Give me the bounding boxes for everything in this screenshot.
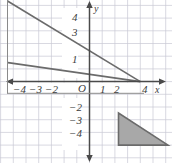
shaded-triangle bbox=[119, 113, 169, 145]
y-tick-label-4: 4 bbox=[72, 12, 78, 23]
x-tick-label-neg4: −4 bbox=[13, 84, 26, 95]
x-tick-label-neg2: −2 bbox=[45, 84, 58, 95]
y-tick-label-neg3: −3 bbox=[69, 115, 82, 126]
x-axis-label: x bbox=[155, 85, 159, 95]
x-tick-label-4: 4 bbox=[142, 84, 148, 95]
x-tick-label-1: 1 bbox=[100, 84, 106, 95]
y-tick-label-3: 3 bbox=[72, 27, 78, 38]
origin-label: O bbox=[78, 83, 86, 94]
y-tick-label-neg4: −4 bbox=[69, 128, 82, 139]
graph-canvas bbox=[0, 0, 172, 163]
x-tick-label-2: 2 bbox=[114, 84, 120, 95]
y-tick-label-neg2: −2 bbox=[69, 102, 82, 113]
y-tick-label-1: 1 bbox=[72, 54, 78, 65]
coordinate-plane-figure: y x O 4 3 1 −2 −3 −4 −4 −3 −2 1 2 4 bbox=[0, 0, 172, 163]
x-tick-label-neg3: −3 bbox=[29, 84, 42, 95]
y-axis-label: y bbox=[94, 4, 98, 14]
